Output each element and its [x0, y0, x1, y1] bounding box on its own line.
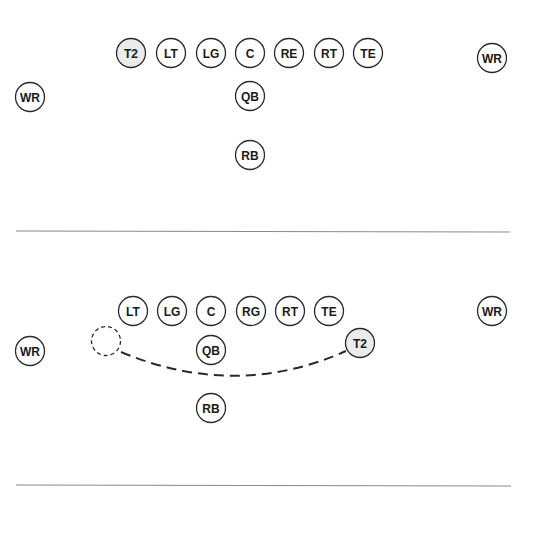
player-qb: QB: [197, 336, 226, 365]
player-rb: RB: [236, 141, 265, 170]
player-label: WR: [482, 52, 502, 66]
player-wr: WR: [478, 44, 507, 73]
formation-1: T2LTLGCRERTTEWRWRQBRB: [16, 39, 507, 170]
player-label: RT: [321, 47, 338, 61]
player-rb: RB: [197, 394, 226, 423]
player-label: RG: [242, 305, 260, 319]
player-label: RB: [202, 402, 220, 416]
player-label: WR: [482, 305, 502, 319]
player-label: RB: [241, 149, 259, 163]
player-lt: LT: [119, 297, 148, 326]
player-te: TE: [354, 39, 383, 68]
formation-2: LTLGCRGRTTEWRWRQBT2RB: [16, 297, 507, 423]
divider-2: [16, 485, 511, 486]
player-label: QB: [241, 90, 259, 104]
divider-1: [16, 231, 510, 232]
player-label: LT: [164, 47, 178, 61]
player-label: C: [207, 305, 216, 319]
player-re: RE: [275, 39, 304, 68]
player-label: C: [246, 47, 255, 61]
player-lg: LG: [197, 39, 226, 68]
player-label: LT: [126, 305, 140, 319]
player-rt: RT: [276, 297, 305, 326]
player-rt: RT: [315, 39, 344, 68]
player-label: RE: [281, 47, 298, 61]
player-label: TE: [360, 47, 375, 61]
player-label: WR: [20, 91, 40, 105]
player-wr: WR: [478, 297, 507, 326]
player-label: T2: [124, 47, 138, 61]
player-label: T2: [353, 337, 367, 351]
player-lg: LG: [158, 297, 187, 326]
player-label: WR: [20, 345, 40, 359]
player-c: C: [236, 39, 265, 68]
player-label: TE: [321, 305, 336, 319]
ghost-position-icon: [92, 327, 121, 356]
player-t2: T2: [346, 329, 375, 358]
player-label: LG: [164, 305, 181, 319]
player-wr: WR: [16, 83, 45, 112]
player-c: C: [197, 297, 226, 326]
formation-diagrams: T2LTLGCRERTTEWRWRQBRB LTLGCRGRTTEWRWRQBT…: [0, 0, 540, 536]
player-qb: QB: [236, 82, 265, 111]
player-t2: T2: [117, 39, 146, 68]
motion-path: [121, 351, 346, 376]
player-te: TE: [315, 297, 344, 326]
player-label: RT: [282, 305, 299, 319]
player-wr: WR: [16, 337, 45, 366]
player-rg: RG: [237, 297, 266, 326]
player-lt: LT: [157, 39, 186, 68]
player-label: LG: [203, 47, 220, 61]
player-label: QB: [202, 344, 220, 358]
